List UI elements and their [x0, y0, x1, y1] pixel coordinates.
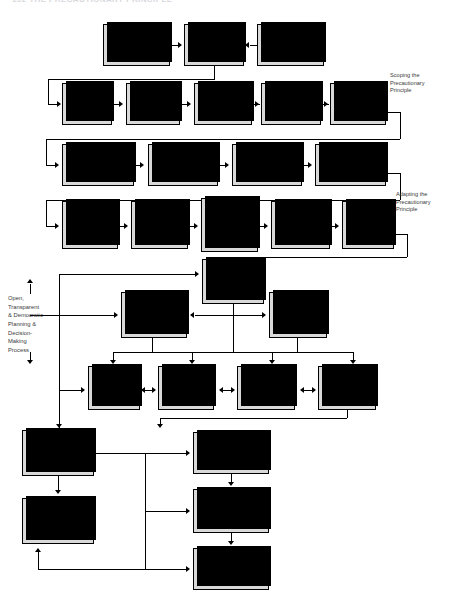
node-label: Undertake Uncertainty Analysis	[97, 375, 132, 400]
node-label: Scoping	[86, 161, 111, 169]
arrowhead-right	[194, 223, 198, 229]
node-set-goals: Set Goals	[148, 144, 218, 186]
node-label: Determine Input Requirements	[337, 91, 379, 116]
arrowhead-right	[178, 42, 182, 48]
connector	[407, 234, 408, 257]
connector	[145, 511, 187, 512]
node-label: Decide on Action Acceptability	[205, 445, 256, 462]
node-label: Refine & Apply Precautionary Thresholds,…	[36, 432, 81, 474]
node-implementation-monitoring: Implementation, Monitoring, Follow-up & …	[22, 498, 94, 544]
connector	[48, 79, 49, 104]
connector	[38, 552, 39, 569]
node-integrate-mitigation: Integrate Mitigation & Compensation Meas…	[237, 366, 295, 410]
node-determine-input-requirements: Determine Input Requirements	[330, 83, 386, 125]
connector	[160, 418, 347, 419]
node-label: Decide on Precautionary Concept Type	[270, 91, 312, 116]
node-refine-proposed-actions: Refine Proposed Actions	[121, 292, 187, 338]
arrowhead-right	[186, 508, 190, 514]
node-determine-scientific-evidence: Determine Scientific Evidence Thresholds…	[201, 198, 258, 252]
connector	[297, 338, 298, 352]
arrowhead-up	[35, 548, 41, 552]
node-decide-precautionary-concept-type: Decide on Precautionary Concept Type	[261, 83, 321, 125]
node-assess-alternatives: Assess Alternatives	[202, 259, 264, 304]
node-label: Prepare Impact, Risk & Uncertainty Manag…	[203, 494, 259, 528]
connector	[46, 139, 47, 165]
node-label: Design Study	[247, 161, 287, 169]
node-precautionary-requirements: Precautionary Requirements	[103, 24, 170, 66]
page-running-head: 152 THE PRECAUTIONARY PRINCIPLE	[12, 0, 172, 4]
node-undertake-uncertainty-analysis: Undertake Uncertainty Analysis	[88, 366, 140, 410]
node-label: Decide on Precautionary Definition	[202, 91, 244, 116]
arrowhead-up	[27, 279, 33, 283]
arrowhead-right	[187, 101, 191, 107]
node-characterize-problem: Characterize Problem	[126, 83, 180, 125]
arrowhead-right	[114, 312, 118, 318]
node-label: Set Goals	[168, 161, 197, 169]
node-label: Assess Alternatives	[215, 273, 251, 290]
node-interpret-impact-risk: Interpret Impact, Risk & Uncertainty Sig…	[318, 366, 376, 410]
arrowhead-right	[124, 223, 128, 229]
node-label: Decide What Is Known or Not Known	[71, 212, 109, 237]
arrowhead-right	[264, 223, 268, 229]
arrowhead-down	[55, 490, 61, 494]
node-label: Determine Scientific Evidence Thresholds…	[209, 204, 249, 246]
node-decide-application-principles: Decide on Application Principles & Proce…	[342, 201, 394, 249]
node-label: Precautionary Guidelines	[270, 37, 312, 54]
node-label: Determine Harm Thresholds & Criteria	[139, 208, 179, 242]
node-label: Identify Proposal Purpose, Need & Altern…	[325, 152, 376, 177]
arrowhead-down	[228, 482, 234, 486]
arrowhead-right	[140, 162, 144, 168]
node-label: Interpret Impact, Risk & Uncertainty Sig…	[327, 371, 368, 405]
node-decide-precautionary-definition: Decide on Precautionary Definition	[194, 83, 252, 125]
arrowhead-right	[324, 101, 328, 107]
arrowhead-left	[190, 312, 194, 318]
arrowhead-left	[300, 387, 304, 393]
connector	[48, 79, 215, 80]
connector	[59, 390, 82, 391]
arrowhead-right	[57, 101, 61, 107]
node-label: Identify & Predict Impacts & Risks	[171, 371, 201, 405]
node-label: Characterize Problem	[134, 96, 172, 113]
arrowhead-down	[27, 360, 33, 364]
connector	[233, 304, 234, 352]
node-decision-making-take-action: Decision Making/ Take Precautionary Acti…	[193, 548, 269, 590]
connector	[113, 352, 353, 353]
arrowhead-right	[262, 312, 266, 318]
node-refine-apply-precautionary: Refine & Apply Precautionary Thresholds,…	[22, 430, 94, 476]
arrowhead-right	[186, 566, 190, 572]
connector	[38, 569, 145, 570]
node-identify-threat: Identify Threat	[62, 83, 112, 125]
node-label: Implementation, Monitoring, Follow-up & …	[34, 504, 82, 538]
node-label: Determine Decision Rules, Thresholds & C…	[277, 208, 324, 242]
connector	[152, 338, 153, 352]
connector	[145, 569, 187, 570]
connector	[386, 173, 400, 174]
connector	[214, 66, 215, 79]
node-scoping: Scoping	[62, 144, 134, 186]
arrowhead-down	[157, 424, 163, 428]
arrowhead-right	[195, 271, 199, 277]
connector	[347, 410, 348, 418]
node-determine-decision-rules: Determine Decision Rules, Thresholds & C…	[271, 201, 330, 249]
annotation-adapting: Adapting the Precautionary Principle	[396, 191, 452, 214]
node-undertake-baseline-analysis: Undertake Baseline Analysis	[269, 292, 327, 338]
arrowhead-right	[308, 162, 312, 168]
node-precautionary-guidelines: Precautionary Guidelines	[257, 24, 324, 66]
node-label: Identify Threat	[76, 96, 98, 113]
node-decide-what-is-known: Decide What Is Known or Not Known	[62, 201, 118, 249]
annotation-scoping: Scoping the Precautionary Principle	[390, 72, 452, 95]
node-determine-harm-thresholds: Determine Harm Thresholds & Criteria	[131, 201, 188, 249]
arrowhead-right	[152, 387, 156, 393]
node-label: Decide on Application Principles & Proce…	[350, 208, 386, 242]
node-label: Screening/ Proposed Action	[198, 32, 230, 57]
node-label: Refine Proposed Actions	[129, 307, 179, 324]
node-identify-predict-impacts: Identify & Predict Impacts & Risks	[158, 366, 214, 410]
arrowhead-right	[312, 387, 316, 393]
arrowhead-down	[228, 541, 234, 545]
node-label: Undertake Baseline Analysis	[283, 302, 314, 327]
arrowhead-right	[119, 101, 123, 107]
connector	[46, 139, 400, 140]
annotation-open-process: Open, Transparent & Democratic Planning …	[8, 294, 60, 355]
node-label: Integrate Mitigation & Compensation Meas…	[244, 371, 288, 405]
arrowhead-right	[186, 450, 190, 456]
